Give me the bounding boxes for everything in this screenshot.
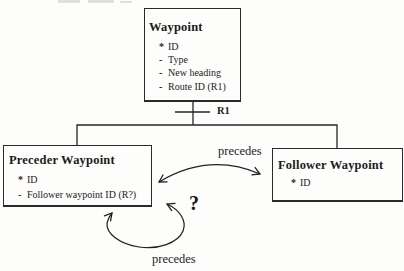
dash-bullet: - — [159, 80, 168, 93]
attribute-row: *ID — [18, 172, 151, 187]
entity-preceder-waypoint: Preceder Waypoint *ID -Follower waypoint… — [3, 145, 152, 207]
attribute-row: *ID — [291, 176, 402, 189]
attribute-row: -New heading — [159, 66, 240, 79]
relationship-label-r1: R1 — [217, 105, 230, 116]
attribute-text: ID — [168, 41, 179, 52]
entity-follower-waypoint: Follower Waypoint *ID — [272, 148, 403, 202]
precedes-label-top: precedes — [218, 144, 262, 159]
attribute-row: -Type — [159, 53, 240, 66]
attribute-text: ID — [300, 177, 311, 188]
attribute-text: Route ID (R1) — [168, 81, 226, 92]
attribute-text: Follower waypoint ID (R?) — [27, 189, 136, 200]
recursive-precedes-arrow — [107, 204, 184, 248]
uncertainty-question-mark: ? — [189, 192, 199, 215]
entity-title: Waypoint — [149, 20, 240, 35]
key-bullet: * — [159, 40, 168, 53]
attribute-text: New heading — [168, 67, 221, 78]
er-diagram-canvas: Waypoint *ID -Type -New heading -Route I… — [0, 0, 404, 271]
attribute-row: -Follower waypoint ID (R?) — [18, 187, 151, 202]
attribute-row: -Route ID (R1) — [159, 80, 240, 93]
entity-waypoint: Waypoint *ID -Type -New heading -Route I… — [144, 8, 241, 102]
dash-bullet: - — [18, 187, 27, 202]
attribute-row: *ID — [159, 40, 240, 53]
dash-bullet: - — [159, 53, 168, 66]
key-bullet: * — [291, 176, 300, 189]
entity-title: Preceder Waypoint — [9, 153, 151, 168]
attribute-text: ID — [27, 174, 38, 185]
attribute-text: Type — [168, 54, 188, 65]
entity-title: Follower Waypoint — [278, 158, 402, 173]
precedes-arrow — [159, 165, 260, 182]
dash-bullet: - — [159, 66, 168, 79]
precedes-label-bottom: precedes — [152, 252, 196, 267]
key-bullet: * — [18, 172, 27, 187]
